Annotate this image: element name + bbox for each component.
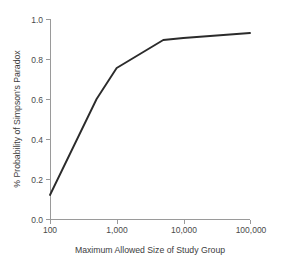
line-chart: 1.0 0.8 0.6 0.4 0.2 0.0 100 1,000 10,000…: [0, 0, 284, 267]
y-tick-label-0: 0.0: [31, 215, 43, 225]
x-axis-title: Maximum Allowed Size of Study Group: [75, 245, 225, 255]
x-tick-label-0: 100: [43, 225, 57, 235]
x-tick-label-1: 1,000: [106, 225, 128, 235]
y-tick-label-3: 0.6: [31, 95, 43, 105]
y-tick-label-4: 0.8: [31, 55, 43, 65]
x-axis-tick-labels: 100 1,000 10,000 100,000: [43, 225, 267, 235]
y-tick-label-2: 0.4: [31, 135, 43, 145]
y-axis-ticks: [46, 20, 51, 220]
chart-figure: 1.0 0.8 0.6 0.4 0.2 0.0 100 1,000 10,000…: [0, 0, 284, 267]
x-tick-label-2: 10,000: [171, 225, 197, 235]
y-tick-label-5: 1.0: [31, 15, 43, 25]
data-line-series-0: [50, 33, 250, 195]
y-axis-tick-labels: 1.0 0.8 0.6 0.4 0.2 0.0: [31, 15, 43, 225]
y-axis-title: % Probability of Simpson's Paradox: [12, 50, 22, 188]
y-tick-label-1: 0.2: [31, 175, 43, 185]
x-tick-label-3: 100,000: [236, 225, 267, 235]
x-axis-ticks: [51, 220, 251, 225]
